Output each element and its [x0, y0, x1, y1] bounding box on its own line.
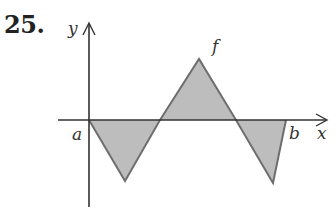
left-bound-label: a — [72, 124, 82, 144]
right-bound-label: b — [289, 123, 300, 143]
function-label: f — [210, 36, 221, 56]
graph-diagram: y x f a b — [0, 0, 336, 216]
x-axis-label: x — [317, 123, 327, 143]
y-axis-label: y — [67, 18, 78, 38]
